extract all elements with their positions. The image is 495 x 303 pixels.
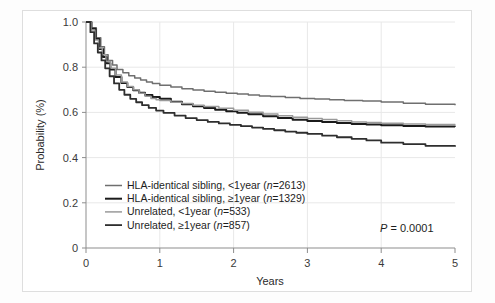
data-series-curves (86, 22, 455, 147)
curve-series-1 (86, 22, 455, 127)
y-tick-label: 0 (72, 242, 78, 254)
y-axis-title: Probability (%) (34, 99, 46, 171)
y-tick-label: 0.4 (63, 152, 78, 164)
survival-curve-chart: 00.20.40.60.81.0 012345 HLA-identical si… (0, 0, 495, 303)
y-tick-label: 0.8 (63, 61, 78, 73)
legend-label-0: HLA-identical sibling, <1year (n=2613) (127, 179, 306, 191)
y-tick-label: 1.0 (63, 16, 78, 28)
legend-label-3: Unrelated, ≥1year (n=857) (127, 219, 250, 231)
legend-label-1: HLA-identical sibling, ≥1year (n=1329) (127, 192, 305, 204)
y-axis-tick-labels: 00.20.40.60.81.0 (63, 16, 78, 254)
x-tick-label: 2 (231, 257, 237, 269)
x-tick-label: 4 (378, 257, 384, 269)
y-tick-label: 0.6 (63, 106, 78, 118)
curve-series-2 (86, 22, 455, 125)
y-tick-label: 0.2 (63, 197, 78, 209)
x-tick-label: 3 (304, 257, 310, 269)
chart-legend: HLA-identical sibling, <1year (n=2613)HL… (105, 179, 306, 231)
figure-container: 00.20.40.60.81.0 012345 HLA-identical si… (0, 0, 495, 303)
curve-series-3 (86, 22, 455, 147)
legend-label-2: Unrelated, <1year (n=533) (127, 205, 250, 217)
x-axis-tick-labels: 012345 (83, 257, 458, 269)
x-axis-title: Years (256, 275, 284, 287)
x-tick-label: 5 (452, 257, 458, 269)
p-value-annotation: P = 0.0001 (380, 222, 434, 234)
x-tick-label: 0 (83, 257, 89, 269)
x-tick-label: 1 (157, 257, 163, 269)
